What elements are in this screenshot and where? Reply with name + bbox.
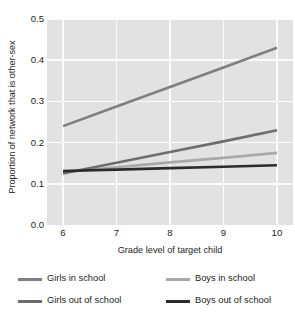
y-tick-label: 0.1: [18, 179, 44, 189]
y-tick-label: 0.2: [18, 138, 44, 148]
series-line: [63, 48, 277, 126]
x-tick-label: 8: [155, 228, 185, 238]
legend-label: Girls out of school: [47, 296, 121, 305]
legend-swatch-icon: [18, 300, 42, 303]
legend-swatch-icon: [166, 300, 190, 303]
legend-item[interactable]: Girls out of school: [18, 294, 121, 308]
y-axis-tick-labels: 0.00.10.20.30.40.5: [14, 0, 44, 318]
chart-figure: Proportion of network that is other-sex …: [0, 0, 295, 318]
x-tick-label: 10: [262, 228, 292, 238]
x-axis-title: Grade level of target child: [47, 245, 293, 255]
legend-item[interactable]: Girls in school: [18, 272, 105, 286]
y-tick-label: 0.0: [18, 220, 44, 230]
legend-item[interactable]: Boys in school: [166, 272, 255, 286]
legend-label: Boys in school: [195, 274, 255, 283]
y-tick-label: 0.3: [18, 96, 44, 106]
legend-label: Boys out of school: [195, 296, 271, 305]
x-tick-label: 7: [102, 228, 132, 238]
series-lines: [47, 19, 293, 225]
legend-item[interactable]: Boys out of school: [166, 294, 271, 308]
legend-label: Girls in school: [47, 274, 105, 283]
x-tick-label: 6: [48, 228, 78, 238]
legend-swatch-icon: [18, 278, 42, 281]
chart-legend: Girls in schoolBoys in schoolGirls out o…: [18, 272, 280, 314]
y-tick-label: 0.4: [18, 55, 44, 65]
y-tick-label: 0.5: [18, 14, 44, 24]
x-tick-label: 9: [208, 228, 238, 238]
x-axis-tick-labels: 678910: [47, 228, 293, 242]
legend-swatch-icon: [166, 278, 190, 281]
plot-area: [47, 19, 293, 225]
